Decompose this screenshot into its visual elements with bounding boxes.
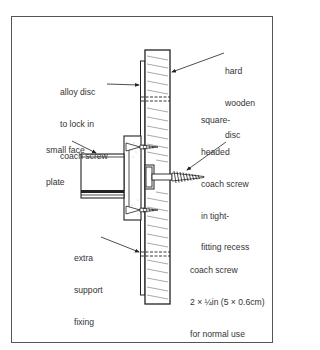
label-line: square-	[201, 115, 249, 126]
label-line: 2 × ¼in (5 × 0.6cm)	[190, 297, 265, 308]
label-line: hard	[225, 66, 255, 77]
arrow-alloy-disc	[107, 84, 139, 85]
arrow-hard-wooden-disc	[172, 53, 224, 72]
label-line: fixing	[74, 317, 103, 328]
label-line: plate	[46, 177, 85, 188]
label-line: support	[74, 285, 103, 296]
arrow-extra-support	[101, 237, 139, 252]
label-coach-screw-recess: square- headed coach screw in tight- fit…	[201, 94, 249, 264]
label-line: alloy disc	[60, 87, 108, 98]
label-small-face-plate: small face plate	[46, 124, 85, 198]
label-extra-support: extra support fixing holes	[74, 232, 103, 350]
label-coach-screw-spec: coach screw 2 × ¼in (5 × 0.6cm) for norm…	[190, 243, 265, 350]
label-line: extra	[74, 253, 103, 264]
label-line: headed	[201, 147, 249, 158]
label-line: small face	[46, 145, 85, 156]
label-line: coach screw	[201, 179, 249, 190]
label-line: in tight-	[201, 211, 249, 222]
label-line: for normal use	[190, 329, 265, 340]
label-line: coach screw	[190, 265, 265, 276]
